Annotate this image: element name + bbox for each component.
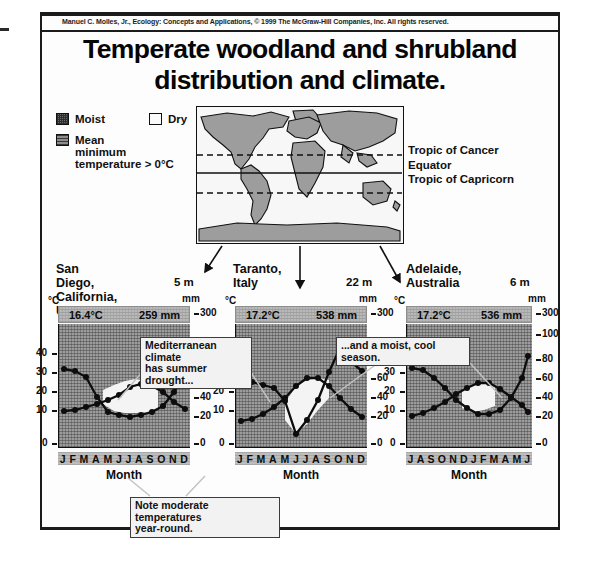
tickmark-l40-1: [52, 353, 57, 355]
stats-bar-adelaide: 17.2°C 536 mm: [406, 306, 532, 323]
rule-bottom: [40, 527, 560, 530]
month-1-6: J: [116, 453, 122, 465]
unit-mm-1: mm: [182, 293, 200, 304]
mean-temp-taranto: 17.2°C: [246, 309, 280, 321]
page-title: Temperate woodland and shrubland distrib…: [48, 34, 552, 96]
tickmark-r20-1: [194, 416, 199, 418]
tickmark-l0-1: [52, 443, 57, 445]
tickmark-r40-2: [371, 397, 376, 399]
month-1-10: O: [157, 453, 165, 465]
stats-bar-taranto: 17.2°C 538 mm: [235, 306, 367, 323]
tick-right-300-2: 300: [377, 307, 394, 318]
month-3-4: O: [438, 453, 446, 465]
location-name-adelaide: Adelaide, Australia: [406, 262, 462, 290]
dry-swatch-icon: [149, 113, 162, 125]
tickmark-l0-3: [400, 443, 405, 445]
label-tropic-of-capricorn: Tropic of Capricorn: [408, 172, 514, 187]
legend-label-dry: Dry: [168, 113, 187, 125]
month-1-12: D: [180, 453, 188, 465]
tickmark-r40-3: [536, 397, 541, 399]
tick-left-0-3: 0: [390, 437, 396, 448]
annual-precip-adelaide: 536 mm: [481, 309, 522, 321]
month-3-2: A: [417, 453, 425, 465]
tick-left-30-1: 30: [36, 366, 47, 377]
month-2-2: F: [246, 453, 252, 465]
mean-temp-san-diego: 16.4°C: [69, 309, 103, 321]
moist-swatch-icon: [56, 113, 69, 125]
month-labels-san-diego: J F M A M J J A S O N D: [58, 452, 190, 465]
month-2-4: A: [269, 453, 277, 465]
elevation-taranto: 22 m: [346, 276, 372, 288]
tickmark-l0-2: [229, 443, 234, 445]
annual-precip-taranto: 538 mm: [316, 309, 357, 321]
tickmark-l30-1: [52, 372, 57, 374]
tick-right-20-3: 20: [542, 410, 553, 421]
tick-left-10-3: 10: [384, 404, 395, 415]
legend-label-mean-min: Mean minimum temperature > 0°C: [75, 134, 174, 170]
map-latitude-labels: Tropic of Cancer Equator Tropic of Capri…: [408, 143, 514, 187]
month-3-6: D: [460, 453, 468, 465]
tickmark-l20-1: [52, 391, 57, 393]
rule-under-copyright: [40, 30, 560, 32]
callout-mediterranean: Mediterranean climate has summer drought…: [140, 337, 252, 389]
tick-right-40-3: 40: [542, 391, 553, 402]
tickmark-l10-3: [400, 410, 405, 412]
month-labels-adelaide: J A S O N D J F M A M J: [406, 452, 532, 465]
month-2-11: N: [346, 453, 354, 465]
label-tropic-of-cancer: Tropic of Cancer: [408, 143, 514, 158]
tick-left-0-2: 0: [219, 437, 225, 448]
tickmark-r300-1: [194, 313, 199, 315]
label-equator: Equator: [408, 158, 514, 173]
world-map: [196, 106, 404, 244]
month-2-7: J: [302, 453, 308, 465]
unit-mm-3: mm: [528, 293, 546, 304]
tickmark-l10-1: [52, 410, 57, 412]
unit-celsius-3: °C: [394, 295, 405, 306]
month-2-5: M: [280, 453, 289, 465]
month-1-7: J: [125, 453, 131, 465]
legend-item-mean-min: Mean minimum temperature > 0°C: [56, 134, 187, 170]
month-3-10: A: [502, 453, 510, 465]
mean-min-swatch-icon: [56, 134, 69, 146]
page-margin: [0, 0, 14, 561]
unit-mm-2: mm: [359, 293, 377, 304]
tick-left-20-1: 20: [36, 385, 47, 396]
rule-top: [40, 12, 560, 16]
tickmark-r0-2: [371, 443, 376, 445]
tick-right-0-2: 0: [377, 437, 383, 448]
month-3-5: N: [449, 453, 457, 465]
tick-right-300-1: 300: [200, 307, 217, 318]
month-1-11: N: [169, 453, 177, 465]
slide-page: Manuel C. Molles, Jr., Ecology: Concepts…: [0, 0, 596, 561]
month-3-11: M: [512, 453, 521, 465]
tick-left-30-3: 30: [384, 366, 395, 377]
month-labels-taranto: J F M A M J J A S O N D: [235, 452, 367, 465]
month-3-7: J: [471, 453, 477, 465]
tick-left-20-3: 20: [384, 385, 395, 396]
tick-right-40-1: 40: [200, 391, 211, 402]
annual-precip-san-diego: 259 mm: [139, 309, 180, 321]
xaxis-label-san-diego: Month: [58, 468, 190, 482]
month-3-8: F: [480, 453, 486, 465]
elevation-adelaide: 6 m: [510, 276, 530, 288]
tick-right-80-3: 80: [542, 353, 553, 364]
legend-item-moist: Moist: [56, 113, 105, 125]
month-3-9: M: [490, 453, 499, 465]
callout-moderate-temps: Note moderate temperatures year-round.: [130, 497, 280, 538]
tickmark-r60-2: [371, 378, 376, 380]
tickmark-r300-2: [371, 313, 376, 315]
location-name-taranto: Taranto, Italy: [233, 262, 281, 290]
tick-left-10-2: 10: [213, 404, 224, 415]
tick-right-20-1: 20: [200, 410, 211, 421]
month-1-2: F: [69, 453, 75, 465]
legend-item-dry: Dry: [149, 113, 187, 125]
scan-artifact-mark: [0, 28, 9, 31]
month-1-5: M: [103, 453, 112, 465]
unit-celsius-1: °C: [48, 295, 59, 306]
month-1-8: A: [135, 453, 143, 465]
tick-right-100-3: 100: [542, 328, 559, 339]
month-1-3: M: [80, 453, 89, 465]
tickmark-r20-2: [371, 416, 376, 418]
month-2-6: J: [293, 453, 299, 465]
callout-moist-cool: ...and a moist, cool season.: [336, 337, 470, 366]
